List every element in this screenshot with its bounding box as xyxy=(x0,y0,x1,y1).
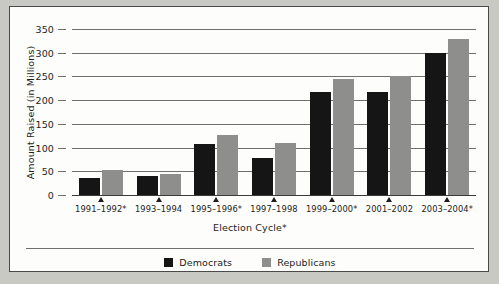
x-tick-mark xyxy=(213,197,219,202)
y-tick-dash xyxy=(58,148,66,149)
y-tick-label: 0 xyxy=(48,190,54,201)
y-tick-label: 350 xyxy=(36,24,54,35)
y-tick-label: 100 xyxy=(36,142,54,153)
bar-democrats-5 xyxy=(367,92,388,195)
y-tick-dash xyxy=(58,53,66,54)
x-tick-label: 2001–2002 xyxy=(366,204,413,214)
x-tick-label: 2003–2004* xyxy=(421,204,473,214)
x-tick-mark xyxy=(271,197,277,202)
x-axis-tick-marks xyxy=(72,196,476,204)
y-tick-dash xyxy=(58,124,66,125)
y-tick-label: 250 xyxy=(36,71,54,82)
x-tick-label: 1997–1998 xyxy=(250,204,297,214)
bar-democrats-2 xyxy=(194,144,215,195)
y-tick-label: 300 xyxy=(36,47,54,58)
x-tick-mark xyxy=(156,197,162,202)
x-tick-mark xyxy=(386,197,392,202)
bar-group xyxy=(194,29,238,195)
bar-democrats-0 xyxy=(79,178,100,195)
bar-democrats-1 xyxy=(137,176,158,195)
bar-group xyxy=(310,29,354,195)
x-axis-title: Election Cycle* xyxy=(10,222,490,233)
legend-item-republicans: Republicans xyxy=(262,257,336,268)
y-tick-label: 150 xyxy=(36,118,54,129)
bar-democrats-4 xyxy=(310,92,331,195)
x-tick-mark xyxy=(444,197,450,202)
x-tick-label: 1999–2000* xyxy=(306,204,358,214)
bar-republicans-6 xyxy=(448,39,469,195)
legend-swatch-rep xyxy=(262,258,271,267)
y-tick-dash xyxy=(58,29,66,30)
bar-republicans-4 xyxy=(333,79,354,195)
x-tick-mark xyxy=(329,197,335,202)
bar-group xyxy=(137,29,181,195)
x-tick-label: 1991–1992* xyxy=(75,204,127,214)
bar-republicans-2 xyxy=(217,135,238,195)
y-tick-label: 200 xyxy=(36,95,54,106)
bar-republicans-5 xyxy=(390,76,411,195)
x-tick-mark xyxy=(98,197,104,202)
y-tick-label: 50 xyxy=(42,166,54,177)
chart-legend: DemocratsRepublicans xyxy=(10,257,490,268)
legend-label: Republicans xyxy=(277,257,336,268)
y-tick-dash xyxy=(58,76,66,77)
bar-republicans-0 xyxy=(102,170,123,195)
legend-label: Democrats xyxy=(179,257,232,268)
y-tick-dash xyxy=(58,195,66,196)
bar-group xyxy=(425,29,469,195)
bar-group xyxy=(252,29,296,195)
legend-swatch-dem xyxy=(164,258,173,267)
y-tick-dash xyxy=(58,100,66,101)
chart-figure: Amount Raised (in Millions) 050100150200… xyxy=(9,6,489,272)
y-tick-dash xyxy=(58,171,66,172)
bar-republicans-3 xyxy=(275,143,296,195)
bar-democrats-3 xyxy=(252,158,273,195)
bar-group xyxy=(79,29,123,195)
legend-item-democrats: Democrats xyxy=(164,257,232,268)
x-axis-tick-labels: 1991–1992*1993–19941995–1996*1997–199819… xyxy=(60,204,490,218)
bar-democrats-6 xyxy=(425,53,446,195)
x-tick-label: 1995–1996* xyxy=(191,204,243,214)
bar-republicans-1 xyxy=(160,174,181,195)
plot-area xyxy=(72,29,476,195)
legend-divider xyxy=(26,248,474,249)
bar-group xyxy=(367,29,411,195)
page-background: Amount Raised (in Millions) 050100150200… xyxy=(0,0,499,284)
x-tick-label: 1993–1994 xyxy=(135,204,182,214)
y-axis-ticks: 050100150200250300350 xyxy=(10,29,68,195)
